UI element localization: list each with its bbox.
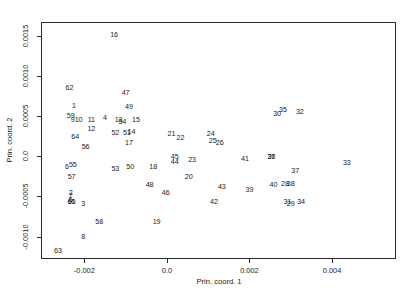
x-axis-tick-label: 0.004 bbox=[323, 266, 342, 275]
data-point-label: 56 bbox=[82, 144, 90, 151]
data-point-label: 46 bbox=[162, 190, 170, 197]
y-axis-tick bbox=[37, 76, 41, 77]
y-axis-tick-label: -0.0005 bbox=[21, 184, 30, 209]
data-point-label: 64 bbox=[71, 133, 79, 140]
data-point-label: 53 bbox=[111, 165, 119, 172]
y-axis-title: Prin. coord. 2 bbox=[5, 117, 14, 162]
data-point-label: 41 bbox=[241, 155, 249, 162]
data-point-label: 15 bbox=[132, 116, 140, 123]
data-point-label: 20 bbox=[185, 173, 193, 180]
data-point-label: 39 bbox=[246, 186, 254, 193]
data-point-label: 4 bbox=[103, 115, 107, 122]
x-axis-tick-label: 0.002 bbox=[240, 266, 259, 275]
data-point-label: 17 bbox=[125, 140, 133, 147]
x-axis-title: Prin. coord. 1 bbox=[196, 277, 241, 286]
data-point-label: 48 bbox=[146, 181, 154, 188]
x-axis-tick bbox=[167, 259, 168, 263]
data-point-label: 16 bbox=[110, 31, 118, 38]
y-axis-tick bbox=[37, 237, 41, 238]
y-axis-tick bbox=[37, 116, 41, 117]
data-point-label: 50 bbox=[126, 163, 134, 170]
data-point-label: 63 bbox=[54, 247, 62, 254]
x-axis-tick-label: -0.002 bbox=[74, 266, 95, 275]
data-point-label: 26 bbox=[216, 139, 224, 146]
data-point-label: 12 bbox=[87, 125, 95, 132]
data-point-label: 1 bbox=[72, 102, 76, 109]
data-point-label: 31 bbox=[284, 198, 292, 205]
y-axis-tick bbox=[37, 36, 41, 37]
y-axis-tick-label: 0.0015 bbox=[21, 24, 30, 47]
x-axis-tick bbox=[84, 259, 85, 263]
data-point-label: 35 bbox=[279, 107, 287, 114]
data-point-label: 55 bbox=[69, 161, 77, 168]
data-point-label: 3 bbox=[81, 201, 85, 208]
data-point-label: 57 bbox=[68, 173, 76, 180]
data-point-label: 38 bbox=[287, 181, 295, 188]
data-point-label: 59 bbox=[67, 112, 75, 119]
data-point-label: 18 bbox=[149, 164, 157, 171]
data-point-label: 34 bbox=[297, 198, 305, 205]
data-point-label: 33 bbox=[343, 159, 351, 166]
data-point-label: 51 bbox=[123, 129, 131, 136]
data-point-label: 10 bbox=[75, 116, 83, 123]
data-point-label: 52 bbox=[111, 129, 119, 136]
data-point-label: 62 bbox=[66, 84, 74, 91]
data-point-label: 8 bbox=[81, 234, 85, 241]
y-axis-tick-label: 0.0 bbox=[21, 151, 30, 161]
x-axis-tick-label: 0.0 bbox=[162, 266, 172, 275]
y-axis-tick-label: -0.0010 bbox=[21, 224, 30, 249]
data-point-label: 54 bbox=[118, 119, 126, 126]
data-point-label: 21 bbox=[168, 130, 176, 137]
data-point-label: 45 bbox=[171, 153, 179, 160]
data-point-label: 61 bbox=[68, 198, 76, 205]
data-point-label: 19 bbox=[153, 218, 161, 225]
data-point-label: 40 bbox=[269, 181, 277, 188]
data-point-label: 11 bbox=[88, 116, 95, 123]
y-axis-tick-label: 0.0010 bbox=[21, 65, 30, 88]
scatter-plot-figure: -0.0020.00.0020.004-0.0010-0.00050.00.00… bbox=[0, 0, 408, 297]
data-point-label: 49 bbox=[125, 104, 133, 111]
y-axis-tick bbox=[37, 156, 41, 157]
y-axis-tick bbox=[37, 196, 41, 197]
data-point-label: 42 bbox=[210, 198, 218, 205]
data-point-label: 37 bbox=[291, 167, 299, 174]
data-point-label: 58 bbox=[95, 218, 103, 225]
y-axis-tick-label: 0.0005 bbox=[21, 105, 30, 128]
x-axis-tick bbox=[332, 259, 333, 263]
data-point-label: 22 bbox=[177, 135, 185, 142]
data-point-label: 43 bbox=[218, 184, 226, 191]
data-point-label: 23 bbox=[188, 157, 196, 164]
data-point-label: 47 bbox=[122, 89, 130, 96]
data-point-label: 36 bbox=[267, 153, 275, 160]
data-point-label: 32 bbox=[296, 108, 304, 115]
x-axis-tick bbox=[249, 259, 250, 263]
